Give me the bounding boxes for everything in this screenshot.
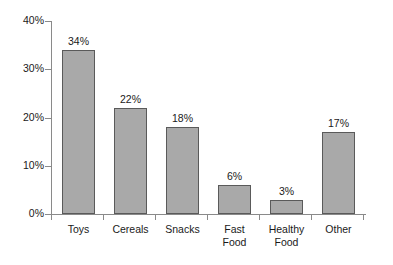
x-axis-category-label: Healthy Food	[261, 223, 312, 248]
y-axis-tick-mark	[45, 69, 51, 70]
x-axis-tick-mark	[51, 215, 52, 220]
x-axis-category-label: Fast Food	[209, 223, 260, 248]
x-axis-category-label: Other	[313, 223, 364, 236]
bar-value-label: 6%	[208, 171, 261, 182]
bar-chart: 0%10%20%30%40% 34%22%18%6%3%17% ToysCere…	[0, 0, 393, 265]
y-axis-tick-mark	[45, 118, 51, 119]
bar-value-label: 34%	[52, 36, 105, 47]
x-axis-tick-mark	[363, 215, 364, 220]
y-axis-tick-label: 0%	[29, 208, 44, 219]
x-axis-category-label: Snacks	[157, 223, 208, 236]
bar-value-label: 17%	[312, 118, 365, 129]
bar	[114, 108, 147, 214]
x-axis-tick-mark	[259, 215, 260, 220]
y-axis-tick-mark	[45, 21, 51, 22]
y-axis-tick-label: 20%	[23, 112, 44, 123]
x-axis-category-label: Toys	[53, 223, 104, 236]
bar	[62, 50, 95, 214]
y-axis-line	[51, 21, 52, 215]
x-axis-line	[51, 214, 366, 215]
x-axis-tick-mark	[103, 215, 104, 220]
bar	[270, 200, 303, 214]
bar-value-label: 18%	[156, 113, 209, 124]
bar	[322, 132, 355, 214]
x-axis-tick-mark	[311, 215, 312, 220]
y-axis-tick-label: 10%	[23, 160, 44, 171]
y-axis-tick-mark	[45, 166, 51, 167]
bar-value-label: 22%	[104, 94, 157, 105]
x-axis-category-label: Cereals	[105, 223, 156, 236]
y-axis-tick-label: 40%	[23, 15, 44, 26]
bar	[218, 185, 251, 214]
x-axis-tick-mark	[155, 215, 156, 220]
y-axis-tick-label: 30%	[23, 63, 44, 74]
bar	[166, 127, 199, 214]
x-axis-tick-mark	[207, 215, 208, 220]
bar-value-label: 3%	[260, 186, 313, 197]
